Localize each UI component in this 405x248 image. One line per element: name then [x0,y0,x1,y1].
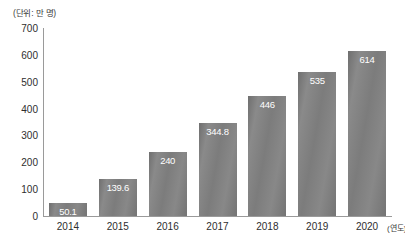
bar-value-label: 139.6 [99,182,137,193]
bar-2018: 446 [248,96,286,216]
bar-chart: (단위: 만 명) 7006005004003002001000 50.1139… [0,0,405,248]
y-axis-tick-100: 100 [21,184,38,195]
plot-area: 50.1139.6240344.8446535614 [43,28,392,216]
bar-value-label: 614 [348,54,386,65]
x-axis-tick-2015: 2015 [93,221,143,232]
bar-value-label: 535 [298,75,336,86]
x-axis-tick-2019: 2019 [292,221,342,232]
y-axis-tick-400: 400 [21,103,38,114]
bar-2019: 535 [298,72,336,216]
x-axis-tick-2020: 2020 [342,221,392,232]
bar-2020: 614 [348,51,386,216]
y-axis-tick-500: 500 [21,76,38,87]
x-axis-tick-2017: 2017 [193,221,243,232]
x-axis-tick-2018: 2018 [242,221,292,232]
x-axis-tick-2014: 2014 [43,221,93,232]
y-axis-tick-700: 700 [21,23,38,34]
y-axis-tick-600: 600 [21,49,38,60]
y-axis-tick-200: 200 [21,157,38,168]
bar-2015: 139.6 [99,179,137,216]
bar-value-label: 240 [149,155,187,166]
y-axis-tick-labels: 7006005004003002001000 [0,0,38,248]
x-axis-tick-2016: 2016 [143,221,193,232]
bar-value-label: 50.1 [49,206,87,217]
y-axis-tick-0: 0 [32,211,38,222]
x-axis-line [43,216,392,217]
bar-2017: 344.8 [199,123,237,216]
bar-2014: 50.1 [49,203,87,216]
bar-value-label: 344.8 [199,126,237,137]
bar-2016: 240 [149,152,187,216]
y-axis-tick-300: 300 [21,130,38,141]
bar-value-label: 446 [248,99,286,110]
